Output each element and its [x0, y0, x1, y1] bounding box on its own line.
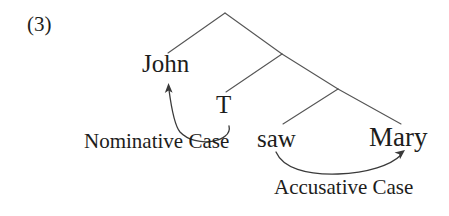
accusative-arrowhead-icon	[395, 150, 406, 159]
accusative-case-label: Accusative Case	[274, 177, 413, 198]
accusative-case-arrow	[276, 152, 401, 174]
syntax-tree-figure: (3) John T saw Mary Nominative Case Accu…	[0, 0, 449, 216]
nominative-case-label: Nominative Case	[84, 131, 229, 152]
